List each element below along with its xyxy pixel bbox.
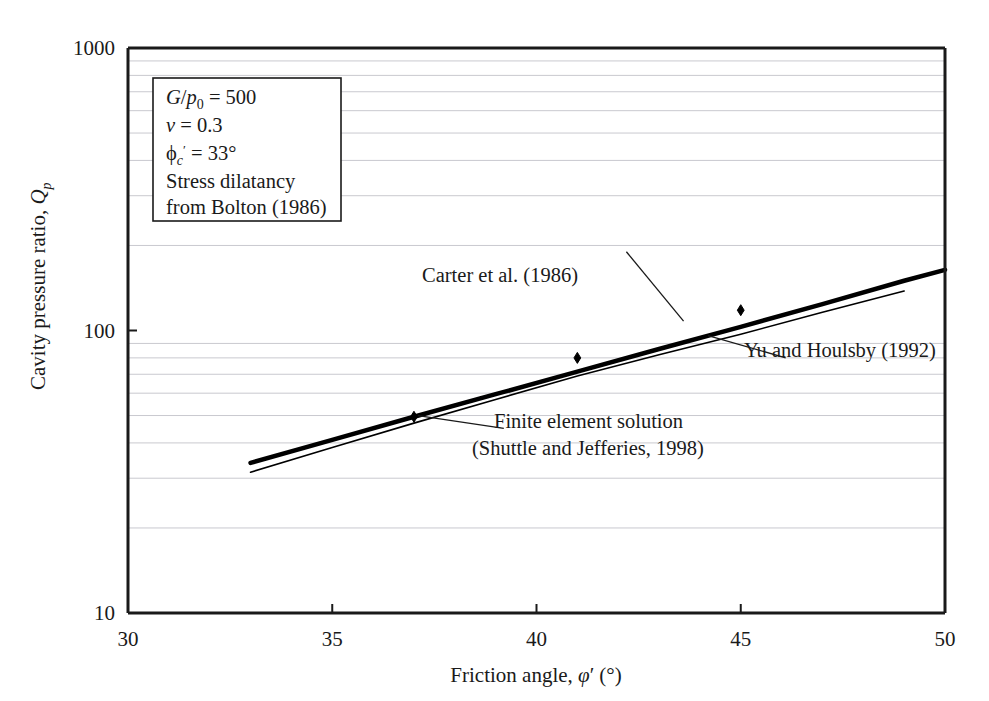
parameter-textbox: G/p0 = 500 ν = 0.3 ϕc′ = 33° Stress dila… <box>153 78 341 221</box>
y-axis-title: Cavity pressure ratio, Qp <box>26 182 54 390</box>
y-tick-label: 100 <box>84 319 116 343</box>
textbox-line-4: from Bolton (1986) <box>166 196 327 219</box>
textbox-line-3: Stress dilatancy <box>166 170 296 193</box>
x-tick-label: 40 <box>526 627 547 651</box>
x-tick-label: 35 <box>322 627 343 651</box>
y-tick-label: 10 <box>94 601 115 625</box>
cavity-pressure-ratio-chart: 101001000 3035404550 Cavity pressure rat… <box>0 0 989 701</box>
y-tick-labels: 101001000 <box>73 36 115 625</box>
x-axis-title-prefix: Friction angle, <box>450 663 578 687</box>
textbox-line-1: ν = 0.3 <box>166 114 223 136</box>
annotation-yu-houlsby: Yu and Houlsby (1992) <box>744 339 936 362</box>
annotation-fe-line1: Finite element solution <box>494 410 683 432</box>
y-axis-title-subscript: p <box>39 182 54 190</box>
x-axis-title-units: (°) <box>599 663 621 687</box>
y-axis-title-symbol: Q <box>26 189 50 204</box>
x-tick-label: 30 <box>118 627 139 651</box>
annotation-carter: Carter et al. (1986) <box>422 264 578 287</box>
x-axis-title-symbol: φ <box>578 663 590 687</box>
y-axis-title-prefix: Cavity pressure ratio, <box>26 205 50 390</box>
y-tick-label: 1000 <box>73 36 115 60</box>
annotation-fe-line2: (Shuttle and Jefferies, 1998) <box>472 437 704 460</box>
chart-figure: 101001000 3035404550 Cavity pressure rat… <box>0 0 989 701</box>
x-axis-title: Friction angle, φ′(°) <box>450 663 621 687</box>
x-axis-title-prime: ′ <box>590 663 595 687</box>
svg-text:Cavity pressure ratio, Qp: Cavity pressure ratio, Qp <box>26 182 54 390</box>
x-tick-label: 45 <box>730 627 751 651</box>
svg-text:Friction angle, φ′(°): Friction angle, φ′(°) <box>450 663 621 687</box>
x-tick-labels: 3035404550 <box>118 627 956 651</box>
x-tick-label: 50 <box>935 627 956 651</box>
